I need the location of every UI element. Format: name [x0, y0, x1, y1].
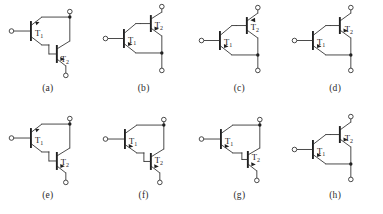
figure-cell-h: T2 T1 (h) — [287, 107, 383, 214]
transistor-label-t2-a: T2 — [61, 54, 69, 65]
circuit-diagram-c: T2 T1 — [192, 0, 288, 84]
terminal-emitter-h[interactable] — [349, 177, 354, 182]
transistor-label-t1-e: T1 — [35, 135, 43, 146]
figure-cell-b: T2 T1 (b) — [96, 0, 192, 107]
transistor-label-t2-c: T2 — [250, 22, 258, 33]
figure-cell-e: T1 T2 (e) — [0, 107, 96, 214]
terminal-emitter-a[interactable] — [64, 73, 69, 78]
transistor-label-t2-d: T2 — [345, 24, 353, 35]
terminal-collector-d[interactable] — [349, 5, 354, 10]
terminal-base-b[interactable] — [103, 36, 108, 41]
transistor-label-t1-d: T1 — [317, 37, 325, 48]
terminal-base-e[interactable] — [9, 136, 14, 141]
figure-sheet: T1 T2 (a) — [0, 0, 383, 214]
transistor-label-t1-b: T1 — [128, 35, 136, 46]
terminal-emitter-g[interactable] — [254, 178, 259, 183]
circuit-diagram-d: T2 T1 — [287, 0, 383, 84]
terminal-base-a[interactable] — [9, 29, 14, 34]
figure-row-top: T1 T2 (a) — [0, 0, 383, 107]
circuit-diagram-b: T2 T1 — [96, 0, 192, 84]
circuit-diagram-g: T1 T2 — [192, 107, 288, 191]
terminal-emitter-d[interactable] — [349, 68, 354, 73]
circuit-diagram-h: T2 T1 — [287, 107, 383, 191]
transistor-label-t2-g: T2 — [251, 152, 259, 163]
figure-caption-b: (b) — [138, 83, 150, 94]
figure-caption-a: (a) — [42, 83, 53, 94]
figure-caption-h: (h) — [329, 190, 341, 201]
terminal-collector-c[interactable] — [255, 5, 260, 10]
figure-cell-d: T2 T1 (d) — [287, 0, 383, 107]
terminal-base-g[interactable] — [199, 137, 204, 142]
transistor-label-t1-a: T1 — [35, 28, 43, 39]
terminal-collector-h[interactable] — [349, 114, 354, 119]
figure-cell-c: T2 T1 (c) — [192, 0, 288, 107]
transistor-label-t1-g: T1 — [224, 136, 232, 147]
transistor-label-t2-h: T2 — [345, 133, 353, 144]
terminal-base-d[interactable] — [292, 38, 297, 43]
circuit-diagram-f: T1 T2 — [96, 107, 192, 191]
circuit-diagram-a: T1 T2 — [0, 0, 96, 84]
terminal-emitter-b[interactable] — [159, 68, 164, 73]
figure-caption-c: (c) — [234, 83, 245, 94]
terminal-collector-f[interactable] — [161, 117, 166, 122]
figure-cell-f: T1 T2 (f) — [96, 107, 192, 214]
transistor-label-t2-f: T2 — [155, 155, 163, 166]
terminal-base-c[interactable] — [199, 38, 204, 43]
figure-caption-f: (f) — [138, 190, 148, 201]
transistor-label-t2-b: T2 — [155, 20, 163, 31]
terminal-collector-b[interactable] — [159, 4, 164, 9]
terminal-collector-e[interactable] — [68, 116, 73, 121]
terminal-base-f[interactable] — [103, 137, 108, 142]
figure-cell-a: T1 T2 (a) — [0, 0, 96, 107]
terminal-emitter-f[interactable] — [157, 180, 162, 185]
figure-row-bottom: T1 T2 (e) — [0, 107, 383, 214]
figure-caption-g: (g) — [233, 190, 245, 201]
terminal-collector-a[interactable] — [68, 9, 73, 14]
transistor-label-t1-c: T1 — [223, 37, 231, 48]
figure-cell-g: T1 T2 (g) — [192, 107, 288, 214]
circuit-diagram-e: T1 T2 — [0, 107, 96, 191]
terminal-emitter-e[interactable] — [64, 180, 69, 185]
terminal-base-h[interactable] — [292, 147, 297, 152]
transistor-label-t2-e: T2 — [61, 157, 69, 168]
figure-caption-e: (e) — [42, 190, 53, 201]
transistor-label-t1-h: T1 — [317, 146, 325, 157]
transistor-label-t1-f: T1 — [129, 136, 137, 147]
terminal-emitter-c[interactable] — [255, 68, 260, 73]
terminal-collector-g[interactable] — [257, 117, 262, 122]
figure-caption-d: (d) — [329, 83, 341, 94]
